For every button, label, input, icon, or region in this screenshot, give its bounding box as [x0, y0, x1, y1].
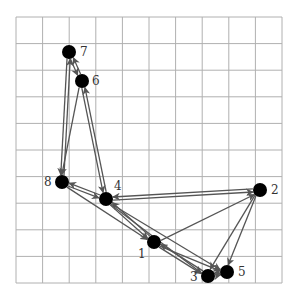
graph-diagram: 12345678	[0, 0, 296, 300]
node-5	[220, 265, 234, 279]
node-2	[253, 183, 267, 197]
node-6	[75, 74, 89, 88]
node-label-3: 3	[190, 270, 198, 284]
edge-4-5	[111, 204, 220, 270]
node-label-6: 6	[92, 74, 100, 88]
node-8	[55, 175, 69, 189]
node-3	[201, 269, 215, 283]
node-7	[62, 45, 76, 59]
node-label-7: 7	[80, 45, 88, 59]
edge-4-1	[110, 205, 148, 239]
node-label-8: 8	[44, 175, 52, 189]
edge-8-4	[68, 186, 99, 198]
edge-3-1	[161, 244, 203, 271]
edge-5-3	[215, 272, 220, 273]
node-label-2: 2	[271, 183, 279, 197]
edge-3-5	[215, 275, 220, 276]
edge-6-7	[73, 58, 80, 74]
edge-2-3	[210, 195, 255, 269]
node-4	[99, 192, 113, 206]
node-1	[147, 235, 161, 249]
edge-2-5	[228, 196, 256, 265]
edge-7-8	[61, 59, 67, 175]
node-label-1: 1	[138, 247, 146, 261]
edge-7-6	[70, 59, 77, 75]
node-label-4: 4	[114, 179, 122, 193]
node-label-5: 5	[238, 265, 246, 279]
